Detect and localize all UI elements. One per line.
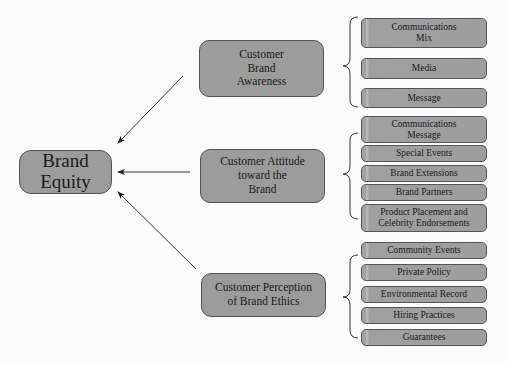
leaf-private-policy: Private Policy (361, 264, 487, 281)
leaf-hiring-practices: Hiring Practices (361, 307, 487, 324)
leaf-brand-partners: Brand Partners (361, 184, 487, 201)
leaf-community-events: Community Events (361, 242, 487, 259)
leaf-label: Hiring Practices (393, 310, 454, 321)
leaf-label-line: Celebrity Endorsements (378, 218, 470, 229)
leaf-label: Private Policy (397, 267, 451, 278)
leaf-label: Message (407, 93, 440, 104)
leaf-label: Brand Partners (396, 187, 453, 198)
leaf-special-events: Special Events (361, 145, 487, 162)
arrow-awareness-to-equity (118, 76, 183, 143)
leaf-label-line: Message (392, 130, 457, 141)
leaf-label-line: Product Placement and (378, 207, 470, 218)
customer-perception-ethics-node: Customer Perception of Brand Ethics (201, 273, 326, 317)
root-label: Brand Equity (40, 150, 91, 192)
leaf-guarantees: Guarantees (361, 329, 487, 346)
leaf-label: Guarantees (403, 332, 446, 343)
brace-awareness (343, 17, 358, 107)
branch-label-line: Brand (220, 183, 305, 197)
leaf-label-line: Communications (392, 119, 457, 130)
leaf-product-placement-celebrity-endorsements: Product Placement andCelebrity Endorseme… (361, 204, 487, 232)
branch-label-line: Customer Attitude (220, 155, 305, 169)
leaf-message: Message (361, 88, 487, 108)
branch-label-line: Customer (237, 48, 286, 62)
leaf-label: Media (412, 63, 436, 74)
brace-attitude (343, 133, 358, 219)
leaf-communications-message: CommunicationsMessage (361, 116, 487, 143)
leaf-label-line: Communications (392, 22, 457, 33)
branch-label-line: of Brand Ethics (215, 295, 312, 309)
branch-label-line: toward the (220, 169, 305, 183)
branch-label-line: Brand (237, 62, 286, 76)
arrow-ethics-to-equity (118, 192, 196, 269)
leaf-brand-extensions: Brand Extensions (361, 165, 487, 182)
leaf-label: Special Events (396, 148, 452, 159)
brand-equity-node: Brand Equity (19, 150, 112, 194)
leaf-label: Environmental Record (381, 289, 467, 300)
branch-label-line: Customer Perception (215, 281, 312, 295)
customer-attitude-node: Customer Attitude toward the Brand (200, 149, 325, 203)
leaf-environmental-record: Environmental Record (361, 286, 487, 303)
branch-label-line: Awareness (237, 75, 286, 89)
leaf-media: Media (361, 58, 487, 79)
leaf-label: Brand Extensions (390, 168, 457, 179)
leaf-label-line: Mix (392, 33, 457, 44)
customer-brand-awareness-node: Customer Brand Awareness (199, 40, 324, 97)
brace-ethics (343, 255, 358, 338)
leaf-label: Community Events (387, 245, 461, 256)
leaf-communications-mix: CommunicationsMix (361, 18, 487, 48)
